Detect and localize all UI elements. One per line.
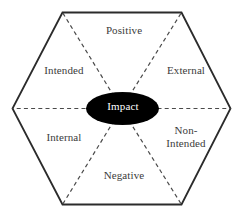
sector-label-negative: Negative — [86, 169, 162, 182]
center-node-label: Impact — [87, 100, 159, 112]
sector-label-positive: Positive — [86, 24, 162, 37]
impact-hexagon-diagram: Impact Positive External Non- Intended N… — [0, 0, 243, 218]
sector-label-non-intended: Non- Intended — [150, 124, 222, 149]
sector-label-internal: Internal — [26, 131, 102, 144]
sector-label-intended: Intended — [26, 64, 102, 77]
sector-label-external: External — [148, 64, 224, 77]
